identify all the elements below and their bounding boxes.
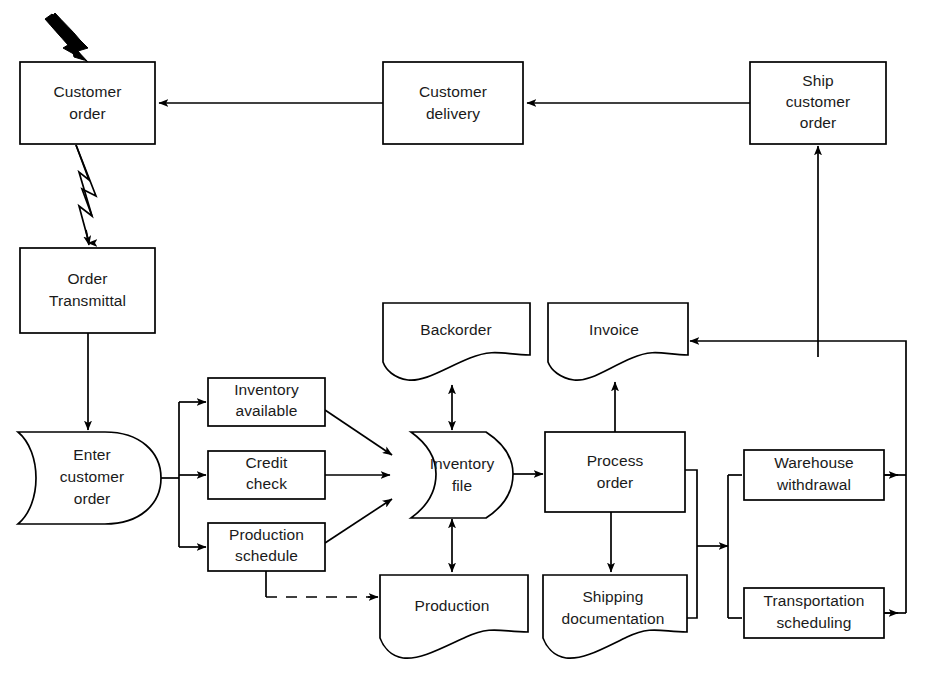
node-ship-customer-order[interactable]: Ship customer order: [750, 62, 886, 144]
conn-invavail-to-invfile: [325, 410, 392, 455]
node-enter-customer-order-line3: order: [74, 490, 111, 507]
node-ship-customer-order-line1: Ship: [802, 72, 833, 89]
node-transportation-scheduling[interactable]: Transportation scheduling: [744, 588, 884, 638]
node-transportation-scheduling-line2: scheduling: [776, 614, 851, 631]
conn-process-to-warehouse-transport: [685, 470, 742, 618]
node-backorder-label: Backorder: [420, 321, 492, 338]
node-production-label: Production: [414, 597, 489, 614]
node-inventory-available-line2: available: [235, 402, 297, 419]
node-inventory-available-line1: Inventory: [234, 381, 299, 398]
conn-enter-to-three-boxes: [161, 402, 206, 547]
node-production-schedule-line2: schedule: [235, 547, 298, 564]
node-shipping-documentation-line1: Shipping: [582, 588, 643, 605]
node-credit-check-line2: check: [246, 475, 287, 492]
node-ship-customer-order-line3: order: [800, 114, 837, 131]
flowchart-canvas: Customer order Customer delivery Ship cu…: [0, 0, 926, 678]
node-customer-delivery[interactable]: Customer delivery: [383, 62, 523, 144]
node-production-schedule[interactable]: Production schedule: [208, 523, 325, 571]
node-warehouse-withdrawal[interactable]: Warehouse withdrawal: [744, 450, 884, 500]
node-transportation-scheduling-line1: Transportation: [764, 592, 865, 609]
node-ship-customer-order-line2: customer: [786, 93, 851, 110]
node-inventory-file-line1: Inventory: [430, 455, 495, 472]
node-backorder[interactable]: Backorder: [383, 303, 530, 380]
node-inventory-file-line2: file: [452, 477, 472, 494]
node-credit-check-line1: Credit: [246, 454, 289, 471]
node-order-transmittal-line2: Transmittal: [49, 292, 126, 309]
external-input-arrow: [45, 13, 88, 62]
node-warehouse-withdrawal-line1: Warehouse: [774, 454, 854, 471]
node-enter-customer-order-line2: customer: [60, 468, 125, 485]
node-shipping-documentation[interactable]: Shipping documentation: [543, 575, 687, 658]
node-enter-customer-order[interactable]: Enter customer order: [18, 432, 161, 524]
node-order-transmittal[interactable]: Order Transmittal: [20, 248, 155, 333]
node-credit-check[interactable]: Credit check: [208, 451, 325, 499]
node-invoice-label: Invoice: [589, 321, 639, 338]
node-enter-customer-order-line1: Enter: [73, 446, 111, 463]
node-process-order-line2: order: [597, 474, 634, 491]
node-process-order[interactable]: Process order: [545, 432, 685, 512]
node-customer-order-line1: Customer: [54, 83, 122, 100]
node-production-schedule-line1: Production: [229, 526, 304, 543]
node-shipping-documentation-line2: documentation: [562, 610, 665, 627]
node-warehouse-withdrawal-line2: withdrawal: [776, 476, 851, 493]
node-invoice[interactable]: Invoice: [548, 303, 688, 380]
conn-prodsched-to-production-dashed: [266, 571, 378, 597]
node-order-transmittal-line1: Order: [67, 270, 107, 287]
conn-order-to-transmittal-lightning: [76, 145, 96, 245]
order-flow-diagram: Customer order Customer delivery Ship cu…: [0, 0, 926, 678]
node-customer-order[interactable]: Customer order: [20, 62, 155, 144]
node-customer-delivery-line1: Customer: [419, 83, 487, 100]
node-production[interactable]: Production: [380, 575, 528, 658]
node-customer-delivery-line2: delivery: [426, 105, 480, 122]
conn-prodsched-to-invfile: [325, 499, 392, 543]
node-customer-order-line2: order: [69, 105, 106, 122]
node-process-order-line1: Process: [587, 452, 644, 469]
node-inventory-available[interactable]: Inventory available: [208, 378, 325, 426]
node-inventory-file[interactable]: Inventory file: [411, 432, 513, 518]
